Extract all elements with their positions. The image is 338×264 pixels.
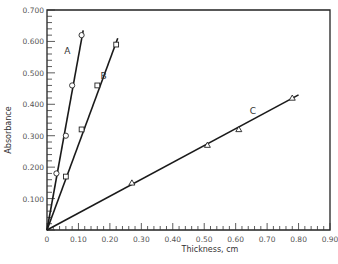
y-tick-label: 0.400 xyxy=(23,100,45,109)
series-label-b: B xyxy=(101,71,107,81)
y-tick-label: 0.700 xyxy=(23,6,45,15)
circle-marker-icon xyxy=(54,171,59,176)
square-marker-icon xyxy=(95,83,100,88)
series-label-a: A xyxy=(64,46,71,56)
square-marker-icon xyxy=(114,42,119,47)
x-tick-label: 0.20 xyxy=(102,235,119,244)
x-tick-label: 0.40 xyxy=(164,235,181,244)
series-line-b xyxy=(47,38,118,230)
x-axis-title: Thickness, cm xyxy=(181,245,239,254)
y-tick-label: 0.500 xyxy=(23,69,45,78)
y-axis-title: Absorbance xyxy=(4,106,13,153)
x-tick-label: 0.90 xyxy=(322,235,338,244)
x-tick-label: 0.70 xyxy=(259,235,276,244)
y-tick-label: 0.300 xyxy=(23,132,45,141)
x-tick-label: 0 xyxy=(45,235,50,244)
axes xyxy=(47,10,330,230)
y-tick-label: 0.600 xyxy=(23,37,45,46)
circle-marker-icon xyxy=(70,83,75,88)
series-line-c xyxy=(47,95,299,230)
circle-marker-icon xyxy=(79,33,84,38)
y-tick-label: 0.100 xyxy=(23,195,45,204)
ticks: 00.100.200.300.400.500.600.700.800.900.1… xyxy=(23,6,338,244)
circle-marker-icon xyxy=(63,133,68,138)
square-marker-icon xyxy=(79,127,84,132)
x-tick-label: 0.60 xyxy=(227,235,244,244)
series-line-a xyxy=(47,30,83,230)
series-lines xyxy=(47,30,299,230)
x-tick-label: 0.80 xyxy=(290,235,307,244)
square-marker-icon xyxy=(63,174,68,179)
x-tick-label: 0.50 xyxy=(196,235,213,244)
chart-canvas: 00.100.200.300.400.500.600.700.800.900.1… xyxy=(0,0,338,264)
x-tick-label: 0.10 xyxy=(70,235,87,244)
x-tick-label: 0.30 xyxy=(133,235,150,244)
y-tick-label: 0.200 xyxy=(23,163,45,172)
series-label-c: C xyxy=(250,106,256,116)
absorbance-vs-thickness-chart: 00.100.200.300.400.500.600.700.800.900.1… xyxy=(0,0,338,264)
plot-frame xyxy=(47,10,330,230)
